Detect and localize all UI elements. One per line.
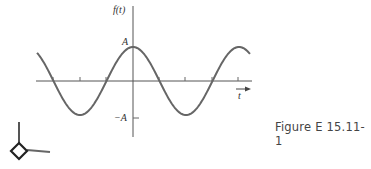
cosine-figure: f(t) A −A t xyxy=(0,0,260,169)
y-axis-label: f(t) xyxy=(113,4,126,16)
x-axis-label: t xyxy=(238,90,241,101)
trough-label: −A xyxy=(114,112,128,123)
diamond-nav-icon xyxy=(11,122,50,159)
arrow-head-icon xyxy=(245,87,251,92)
t-axis-ticks xyxy=(53,77,238,81)
figure-caption: Figure E 15.11-1 xyxy=(275,120,371,148)
peak-label: A xyxy=(121,36,129,47)
